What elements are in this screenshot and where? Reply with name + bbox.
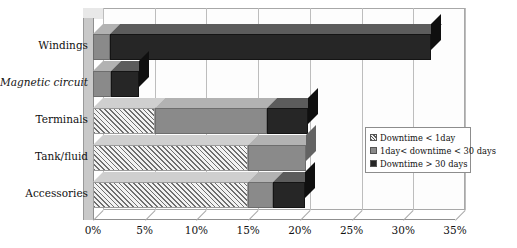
bar-segment-top-face	[93, 135, 258, 145]
bar-segment-front-face	[248, 182, 273, 208]
category-label: Tank/fluid	[0, 150, 88, 162]
bar-segment	[248, 145, 306, 171]
bar-segment-front-face	[110, 34, 432, 60]
gridline	[465, 8, 466, 210]
category-label: Accessories	[0, 187, 88, 199]
bar-segment-top-face	[155, 98, 277, 108]
bar-segment	[155, 108, 267, 134]
bar-segment	[248, 182, 273, 208]
x-axis-tick-label: 15%	[228, 224, 268, 236]
x-axis-tick-label: 0%	[73, 224, 113, 236]
bar-segment-front-face	[93, 182, 248, 208]
bar-segment	[111, 71, 139, 97]
bar-segment	[93, 71, 111, 97]
legend-label: Downtime > 30 days	[380, 159, 467, 169]
category-label: Windings	[0, 39, 88, 51]
floor-front-edge	[93, 219, 455, 220]
bar-segment-front-face	[267, 108, 308, 134]
bar-segment-top-face	[93, 172, 258, 182]
bar-segment-front-face	[155, 108, 267, 134]
bar-segment-front-face	[93, 145, 248, 171]
bar-segment	[110, 34, 432, 60]
bar-segment	[273, 182, 305, 208]
x-axis-tick-label: 20%	[280, 224, 320, 236]
bar-segment-front-face	[273, 182, 305, 208]
bar-segment-top-face	[110, 24, 442, 34]
bar-segment	[93, 108, 155, 134]
floor-back-edge	[103, 209, 465, 210]
bar-segment-front-face	[93, 108, 155, 134]
bar-segment	[93, 182, 248, 208]
bar-segment-front-face	[93, 71, 111, 97]
legend-label: Downtime < 1day	[380, 133, 455, 143]
bar-segment	[267, 108, 308, 134]
bar-segment-front-face	[111, 71, 139, 97]
x-axis-tick-label: 5%	[125, 224, 165, 236]
category-label: Magnetic circuit	[0, 76, 88, 88]
legend-item: Downtime > 30 days	[370, 157, 466, 170]
x-axis-tick-label: 25%	[332, 224, 372, 236]
legend-item: 1day< downtime < 30 days	[370, 144, 466, 157]
legend: Downtime < 1day 1day< downtime < 30 days…	[365, 127, 471, 173]
legend-swatch-icon	[370, 147, 377, 154]
bar-segment	[93, 34, 110, 60]
x-axis-tick-label: 10%	[176, 224, 216, 236]
x-axis-tick-label: 30%	[383, 224, 423, 236]
bar-chart: WindingsMagnetic circuitTerminalsTank/fl…	[0, 0, 517, 248]
bar-segment	[93, 145, 248, 171]
legend-label: 1day< downtime < 30 days	[380, 146, 496, 156]
bar-segment-front-face	[248, 145, 306, 171]
category-label: Terminals	[0, 113, 88, 125]
bar-segment-front-face	[93, 34, 110, 60]
legend-swatch-icon	[370, 134, 377, 141]
bar-segment-top-face	[93, 98, 165, 108]
x-axis-tick-label: 35%	[435, 224, 475, 236]
legend-item: Downtime < 1day	[370, 131, 466, 144]
legend-swatch-icon	[370, 160, 377, 167]
